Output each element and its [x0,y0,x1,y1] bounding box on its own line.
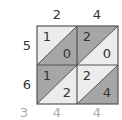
cell-3-lower: 2 [60,86,74,100]
result-digit-3: 4 [90,106,104,120]
cell-3-upper: 1 [40,69,54,83]
cell-2-upper: 2 [80,30,94,44]
cell-4-upper: 2 [80,69,94,83]
cell-2-lower: 0 [100,47,114,61]
result-digit-2: 4 [50,106,64,120]
cell-1-upper: 1 [40,30,54,44]
cell-4-lower: 4 [100,86,114,100]
result-digit-1: 3 [17,106,31,120]
cell-1-lower: 0 [60,47,74,61]
